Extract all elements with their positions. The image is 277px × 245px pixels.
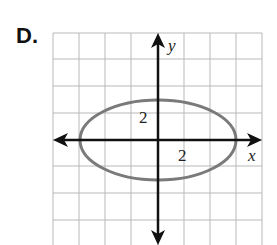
y-axis-label: y [166,36,176,55]
x-tick-label-2: 2 [178,146,187,165]
coordinate-graph: y x 2 2 [0,0,277,245]
x-axis-label: x [247,146,256,165]
y-tick-label-2: 2 [139,108,148,127]
